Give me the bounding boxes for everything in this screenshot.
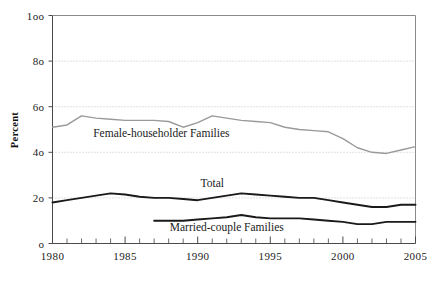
x-tick-label-1995: 1995 [258, 250, 282, 262]
chart-page: o2o4o6o8o1oo 198019851990199520002005 Fe… [0, 0, 434, 281]
line-chart: o2o4o6o8o1oo 198019851990199520002005 Fe… [0, 0, 434, 281]
y-tick-label-20: 2o [33, 192, 45, 204]
y-tick-label-40: 4o [33, 146, 45, 158]
y-tick-label-0: o [39, 238, 45, 250]
x-tick-label-2005: 2005 [404, 250, 428, 262]
x-tick-label-2000: 2000 [331, 250, 355, 262]
series-annotation-2: Married-couple Families [170, 221, 285, 234]
series-annotation-1: Total [200, 177, 223, 189]
series-annotations: Female-householder FamiliesTotalMarried-… [93, 127, 284, 234]
x-axis-tick-labels: 198019851990199520002005 [41, 250, 428, 262]
x-tick-label-1985: 1985 [113, 250, 137, 262]
x-axis-ticks [53, 237, 416, 244]
series-line-1 [53, 193, 416, 207]
y-tick-label-80: 8o [33, 55, 45, 67]
y-axis-title: Percent [9, 112, 20, 149]
y-tick-label-100: 1oo [27, 10, 45, 22]
y-axis-tick-labels: o2o4o6o8o1oo [27, 10, 45, 250]
series-annotation-0: Female-householder Families [93, 127, 230, 139]
y-axis-ticks [49, 16, 53, 244]
y-tick-label-60: 6o [33, 101, 45, 113]
x-tick-label-1980: 1980 [41, 250, 65, 262]
x-tick-label-1990: 1990 [186, 250, 210, 262]
